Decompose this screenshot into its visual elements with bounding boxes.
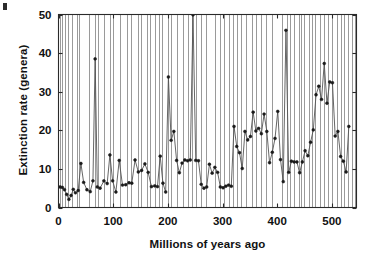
data-point <box>137 171 140 174</box>
x-tick-label: 300 <box>213 215 232 227</box>
data-point <box>298 171 301 174</box>
data-point <box>345 171 348 174</box>
data-point <box>178 171 181 174</box>
data-point <box>254 130 257 133</box>
data-point <box>147 171 150 174</box>
data-point <box>315 93 318 96</box>
y-tick-label: 20 <box>39 124 52 136</box>
data-point <box>211 172 214 175</box>
data-point <box>235 145 238 148</box>
data-point <box>63 188 66 191</box>
data-point <box>323 62 326 65</box>
data-point <box>301 161 304 164</box>
data-point <box>164 191 167 194</box>
data-point <box>175 159 178 162</box>
data-point <box>96 186 99 189</box>
data-point <box>265 130 268 133</box>
data-point <box>271 151 274 154</box>
data-point <box>106 182 109 185</box>
y-tick-label: 50 <box>39 9 52 21</box>
data-point <box>143 162 146 165</box>
data-point <box>285 29 288 32</box>
data-point <box>82 181 85 184</box>
data-point <box>222 186 225 189</box>
data-point <box>89 190 92 193</box>
data-point <box>213 166 216 169</box>
data-point-markers <box>59 0 356 201</box>
data-point <box>312 128 315 131</box>
data-point <box>134 159 137 162</box>
x-tick-label: 0 <box>55 215 61 227</box>
data-point <box>274 137 277 140</box>
data-point <box>244 130 247 133</box>
y-tick-label: 10 <box>39 163 52 175</box>
x-tick-label: 200 <box>158 215 177 227</box>
data-point <box>219 186 222 189</box>
data-point <box>287 171 290 174</box>
data-point <box>353 0 356 1</box>
data-point <box>85 188 88 191</box>
y-tick-label: 0 <box>45 202 51 214</box>
data-point <box>350 0 353 1</box>
data-point <box>342 160 345 163</box>
data-point <box>128 181 131 184</box>
data-point <box>293 161 296 164</box>
data-point <box>77 189 80 192</box>
data-point <box>67 198 70 201</box>
data-point <box>156 185 159 188</box>
data-point <box>306 154 309 157</box>
data-point <box>252 111 255 114</box>
data-point <box>268 161 271 164</box>
data-point <box>189 159 192 162</box>
data-series-line <box>60 15 349 200</box>
data-point <box>79 162 82 165</box>
data-point <box>263 113 266 116</box>
data-point <box>309 141 312 144</box>
data-point <box>194 159 197 162</box>
data-point <box>114 191 117 194</box>
data-point <box>99 187 102 190</box>
data-point <box>233 125 236 128</box>
data-point <box>108 154 111 157</box>
data-point <box>186 159 189 162</box>
data-point <box>167 76 170 79</box>
data-point <box>224 185 227 188</box>
data-point <box>92 179 95 182</box>
data-point <box>304 149 307 152</box>
data-point <box>65 193 68 196</box>
data-point <box>74 191 77 194</box>
data-point <box>205 186 208 189</box>
data-point <box>70 194 73 197</box>
extinction-rate-figure: Extinction rate (genera) Millions of yea… <box>0 0 368 263</box>
data-point <box>61 186 64 189</box>
data-point <box>161 182 164 185</box>
data-point <box>295 161 298 164</box>
data-point <box>246 139 249 142</box>
data-point <box>328 81 331 84</box>
data-point <box>118 159 121 162</box>
chart-plot-area: 010203040500100200300400500 <box>0 0 368 263</box>
data-point <box>347 125 350 128</box>
data-point <box>181 162 184 165</box>
data-point <box>331 81 334 84</box>
data-point <box>320 98 323 101</box>
data-point <box>140 169 143 172</box>
data-point <box>279 158 282 161</box>
x-tick-label: 100 <box>104 215 123 227</box>
data-point <box>276 110 279 113</box>
data-point <box>216 171 219 174</box>
x-tick-label: 500 <box>322 215 341 227</box>
data-point <box>153 184 156 187</box>
data-point <box>260 132 263 135</box>
data-point <box>172 130 175 133</box>
data-point <box>102 179 105 182</box>
data-point <box>317 85 320 88</box>
data-point <box>183 159 186 162</box>
data-point <box>72 188 75 191</box>
series-polyline <box>60 15 349 200</box>
data-point <box>170 139 173 142</box>
data-point <box>257 127 260 130</box>
axis-tick-labels: 010203040500100200300400500 <box>39 9 342 227</box>
data-point <box>290 160 293 163</box>
data-point <box>326 102 329 105</box>
